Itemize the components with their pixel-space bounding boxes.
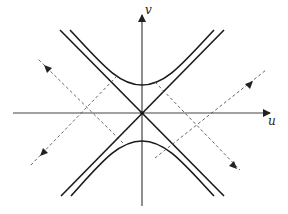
origin-point	[140, 111, 144, 115]
characteristic-lines	[30, 58, 266, 170]
arrow-up-right-icon	[245, 81, 253, 89]
arrow-down-right-icon	[229, 161, 237, 169]
v-axis-label: v	[145, 3, 152, 17]
u-axis-label: u	[268, 114, 276, 128]
dashed-line-right-descending	[155, 82, 240, 170]
diagram-canvas	[0, 0, 288, 214]
